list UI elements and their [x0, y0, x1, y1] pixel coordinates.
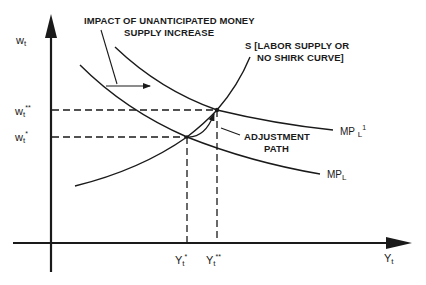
tick-sup: * — [185, 253, 188, 260]
tick-main: w — [15, 131, 23, 143]
mpl-label: MPL — [327, 170, 346, 182]
adjustment-annotation-line2: PATH — [264, 144, 289, 154]
x-axis-arrow-icon — [386, 237, 412, 249]
y-axis — [45, 14, 57, 272]
supply-annotation-line1: S [LABOR SUPPLY OR — [245, 41, 349, 51]
equilibrium-point-new — [215, 108, 219, 112]
mpl1-label-sup: 1 — [362, 124, 366, 131]
mpl-label-sub: L — [342, 173, 346, 182]
tick-sub: t — [213, 259, 215, 268]
guide-lines — [52, 110, 217, 243]
y-axis-label: wt — [16, 35, 26, 48]
mpl1-label-sub: L — [358, 130, 362, 139]
mpl1-label: MP L1 — [340, 124, 366, 139]
y-tick-w-star: wt* — [15, 130, 28, 145]
y-tick-w-double-star: wt** — [15, 104, 31, 119]
y-axis-arrow-icon — [45, 14, 57, 38]
tick-main: w — [15, 105, 23, 117]
adjustment-leader-line — [221, 128, 240, 135]
tick-sub: t — [23, 110, 25, 119]
tick-sup: ** — [25, 104, 30, 111]
impact-annotation-line2: SUPPLY INCREASE — [124, 28, 214, 38]
adjustment-annotation-line1: ADJUSTMENT — [244, 132, 310, 142]
x-tick-y-double-star: Yt** — [206, 253, 221, 268]
mpl-label-main: MP — [327, 169, 342, 180]
supply-curve — [75, 57, 250, 186]
x-axis — [13, 237, 412, 249]
x-axis-label: Yt — [384, 253, 394, 266]
tick-sub: t — [23, 136, 25, 145]
y-axis-label-main: w — [16, 34, 24, 46]
x-tick-y-star: Yt* — [175, 253, 187, 268]
economic-diagram — [0, 0, 426, 285]
tick-sup: * — [25, 130, 28, 137]
impact-leader-line — [101, 30, 117, 84]
mpl1-label-main: MP — [340, 126, 355, 137]
tick-sup: ** — [216, 253, 221, 260]
tick-sub: t — [182, 259, 184, 268]
y-axis-label-sub: t — [24, 39, 26, 48]
equilibrium-point-initial — [185, 135, 189, 139]
supply-annotation-line2: NO SHIRK CURVE] — [257, 53, 344, 63]
x-axis-label-sub: t — [391, 257, 393, 266]
impact-annotation-line1: IMPACT OF UNANTICIPATED MONEY — [84, 16, 255, 26]
